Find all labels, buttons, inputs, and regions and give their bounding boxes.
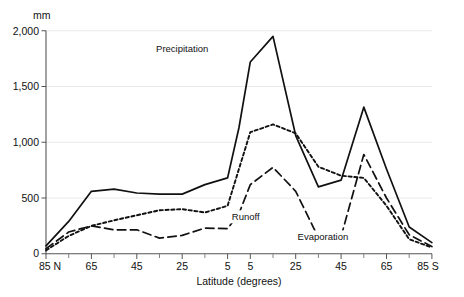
chart-background — [0, 0, 464, 297]
ytick-label-1500: 1,500 — [13, 80, 39, 92]
xtick-label-45s: 45 — [335, 260, 347, 272]
ytick-label-500: 500 — [21, 192, 39, 204]
series-label-evaporation: Evaporation — [298, 231, 349, 242]
x-axis-title: Latitude (degrees) — [196, 275, 281, 287]
series-label-precipitation: Precipitation — [156, 43, 208, 54]
xtick-label-45n: 45 — [131, 260, 143, 272]
xtick-label-65s: 65 — [381, 260, 393, 272]
xtick-label-5s: 5 — [247, 260, 253, 272]
series-label-runoff: Runoff — [232, 211, 260, 222]
y-axis-unit-label: mm — [33, 9, 51, 21]
latitude-water-balance-chart: 2,000 1,500 1,000 500 0 mm 85 N 65 45 25… — [0, 0, 464, 297]
xtick-label-25n: 25 — [176, 260, 188, 272]
xtick-label-65n: 65 — [86, 260, 98, 272]
xtick-label-85n: 85 N — [39, 260, 61, 272]
xtick-label-25s: 25 — [290, 260, 302, 272]
ytick-label-1000: 1,000 — [13, 136, 39, 148]
ytick-label-2000: 2,000 — [13, 25, 39, 37]
xtick-label-5n: 5 — [225, 260, 231, 272]
ytick-label-0: 0 — [33, 247, 39, 259]
xtick-label-85s: 85 S — [417, 260, 439, 272]
